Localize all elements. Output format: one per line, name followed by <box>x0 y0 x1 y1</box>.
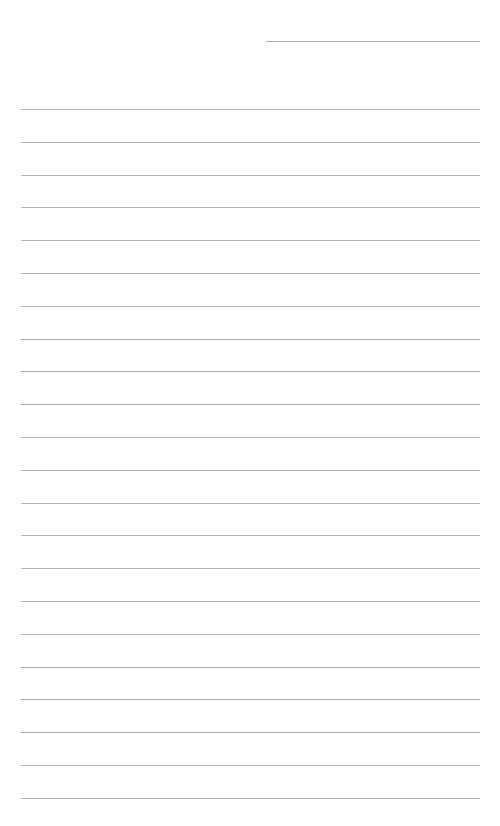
ruled-line <box>21 634 480 635</box>
ruled-line <box>21 667 480 668</box>
ruled-line <box>21 109 480 110</box>
ruled-line <box>21 339 480 340</box>
ruled-line <box>21 273 480 274</box>
lined-page <box>0 0 500 826</box>
ruled-line <box>21 568 480 569</box>
ruled-line <box>21 503 480 504</box>
ruled-line <box>21 601 480 602</box>
ruled-line <box>21 437 480 438</box>
ruled-line <box>21 306 480 307</box>
ruled-line <box>21 404 480 405</box>
ruled-line <box>21 175 480 176</box>
ruled-line <box>21 765 480 766</box>
ruled-line <box>21 470 480 471</box>
ruled-line <box>21 699 480 700</box>
ruled-line <box>21 240 480 241</box>
ruled-line <box>21 207 480 208</box>
ruled-line <box>21 732 480 733</box>
ruled-line <box>21 535 480 536</box>
ruled-line <box>21 798 480 799</box>
ruled-line <box>21 371 480 372</box>
ruled-line <box>21 142 480 143</box>
date-line <box>266 41 480 42</box>
